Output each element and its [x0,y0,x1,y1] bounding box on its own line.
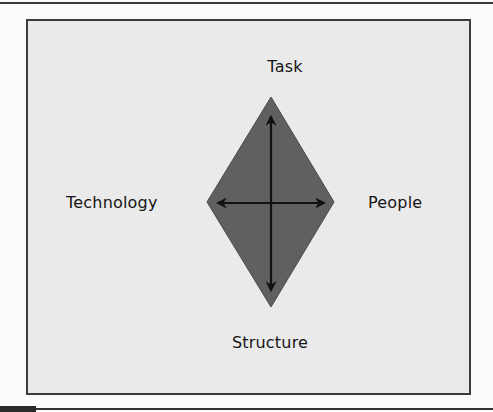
bottom-rule [36,408,493,410]
diamond-diagram [0,0,493,412]
bottom-tab-marker [0,406,36,412]
